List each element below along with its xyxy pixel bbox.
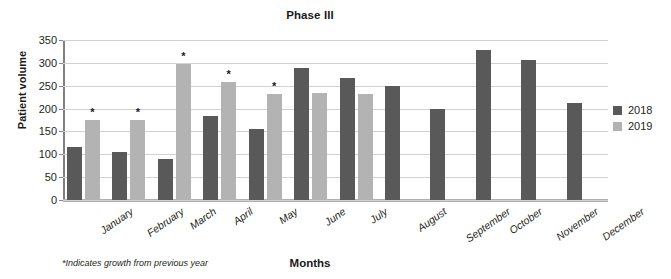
growth-asterisk-january: * <box>90 107 94 118</box>
bar-october-2018[interactable] <box>476 50 491 200</box>
chart-title: Phase III <box>0 9 620 21</box>
x-tick-label-august: August <box>415 205 449 234</box>
legend-label-2018: 2018 <box>628 104 652 116</box>
growth-asterisk-may: * <box>272 81 276 92</box>
bar-group: * <box>108 40 153 200</box>
chart-legend: 20182019 <box>613 102 652 134</box>
growth-asterisk-march: * <box>181 51 185 62</box>
bar-july-2019[interactable] <box>358 94 373 200</box>
bar-july-2018[interactable] <box>340 78 355 201</box>
bar-march-2018[interactable] <box>158 159 173 200</box>
bar-april-2018[interactable] <box>203 116 218 200</box>
bar-group <box>290 40 335 200</box>
bar-september-2018[interactable] <box>430 109 445 200</box>
bar-november-2018[interactable] <box>521 60 536 200</box>
legend-label-2019: 2019 <box>628 120 652 132</box>
bar-april-2019[interactable]: * <box>221 82 236 200</box>
x-tick-label-april: April <box>231 205 255 227</box>
bar-group: * <box>199 40 244 200</box>
bar-group <box>472 40 517 200</box>
bar-february-2018[interactable] <box>112 152 127 200</box>
bar-march-2019[interactable]: * <box>176 64 191 200</box>
y-axis-title: Patient volume <box>16 30 28 150</box>
bar-group <box>517 40 562 200</box>
y-tick-label: 150 <box>39 125 57 137</box>
bar-may-2019[interactable]: * <box>267 94 282 200</box>
growth-asterisk-february: * <box>136 107 140 118</box>
bar-group <box>336 40 381 200</box>
bar-group <box>563 40 608 200</box>
plot-area: 050100150200250300350 ***** <box>63 40 608 200</box>
bar-may-2018[interactable] <box>249 129 264 200</box>
bar-june-2018[interactable] <box>294 68 309 200</box>
y-tick-label: 250 <box>39 80 57 92</box>
bar-december-2018[interactable] <box>567 103 582 200</box>
y-tick-label: 0 <box>51 194 57 206</box>
bar-group <box>381 40 426 200</box>
x-tick-label-september: September <box>464 205 513 244</box>
x-tick-label-february: February <box>144 205 185 239</box>
bar-group: * <box>245 40 290 200</box>
legend-item-2018[interactable]: 2018 <box>613 102 652 118</box>
y-tick-mark <box>59 200 63 201</box>
bar-group: * <box>63 40 108 200</box>
bar-february-2019[interactable]: * <box>130 120 145 200</box>
growth-asterisk-april: * <box>227 69 231 80</box>
y-tick-label: 200 <box>39 103 57 115</box>
bar-january-2018[interactable] <box>67 147 82 200</box>
legend-swatch-2019 <box>613 122 622 131</box>
chart-footnote: *Indicates growth from previous year <box>62 258 208 268</box>
y-tick-label: 350 <box>39 34 57 46</box>
bar-august-2018[interactable] <box>385 86 400 200</box>
bar-january-2019[interactable]: * <box>85 120 100 200</box>
y-tick-label: 300 <box>39 57 57 69</box>
x-tick-label-november: November <box>554 205 601 243</box>
bar-chart: Phase III Patient volume 050100150200250… <box>0 0 671 279</box>
y-tick-label: 100 <box>39 148 57 160</box>
legend-swatch-2018 <box>613 106 622 115</box>
gridline <box>63 200 608 201</box>
x-tick-label-december: December <box>599 205 646 243</box>
bar-june-2019[interactable] <box>312 93 327 200</box>
bar-group <box>426 40 471 200</box>
x-tick-label-june: June <box>322 205 348 228</box>
bar-group: * <box>154 40 199 200</box>
y-tick-label: 50 <box>45 171 57 183</box>
x-tick-label-march: March <box>187 205 218 232</box>
x-tick-label-may: May <box>276 205 299 226</box>
x-tick-label-october: October <box>507 205 544 236</box>
legend-item-2019[interactable]: 2019 <box>613 118 652 134</box>
x-tick-label-january: January <box>98 205 135 236</box>
x-tick-label-july: July <box>367 205 389 226</box>
